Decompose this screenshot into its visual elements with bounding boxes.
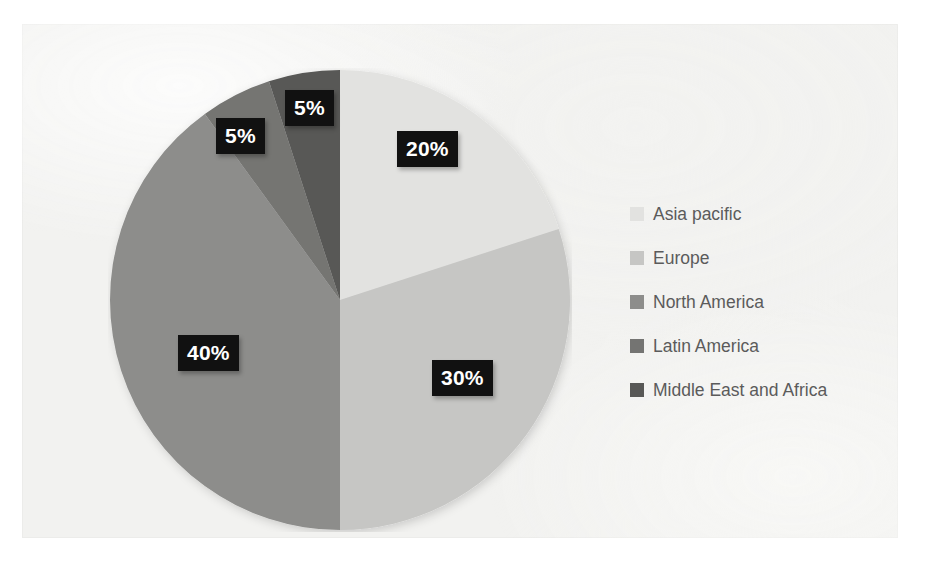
- legend-swatch-icon: [630, 207, 644, 221]
- chart-legend: Asia pacific Europe North America Latin …: [630, 192, 890, 412]
- legend-item-middle-east-and-africa[interactable]: Middle East and Africa: [630, 368, 890, 412]
- legend-swatch-icon: [630, 383, 644, 397]
- data-label-middle-east-and-africa: 5%: [285, 90, 334, 126]
- data-label-north-america: 40%: [178, 335, 239, 371]
- legend-item-label: Latin America: [653, 336, 759, 357]
- legend-swatch-icon: [630, 295, 644, 309]
- pie-chart: [108, 68, 572, 532]
- legend-item-label: Europe: [653, 248, 709, 269]
- legend-swatch-icon: [630, 251, 644, 265]
- legend-item-north-america[interactable]: North America: [630, 280, 890, 324]
- data-label-europe: 30%: [432, 360, 493, 396]
- legend-item-label: Asia pacific: [653, 204, 742, 225]
- legend-swatch-icon: [630, 339, 644, 353]
- pie-slices: [110, 70, 570, 530]
- legend-item-label: North America: [653, 292, 764, 313]
- pie-svg: [108, 68, 572, 532]
- legend-item-asia-pacific[interactable]: Asia pacific: [630, 192, 890, 236]
- legend-item-label: Middle East and Africa: [653, 380, 827, 401]
- legend-item-latin-america[interactable]: Latin America: [630, 324, 890, 368]
- data-label-latin-america: 5%: [216, 118, 265, 154]
- legend-item-europe[interactable]: Europe: [630, 236, 890, 280]
- data-label-asia-pacific: 20%: [397, 131, 458, 167]
- pie-chart-screenshot: 20% 30% 40% 5% 5% Asia pacific Europe No…: [0, 0, 936, 578]
